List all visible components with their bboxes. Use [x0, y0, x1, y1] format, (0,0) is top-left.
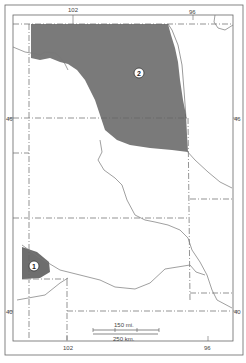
- region-2-marker: 2: [134, 68, 144, 78]
- lon-label-top-102: 102: [68, 7, 79, 13]
- scale-miles-label: 150 mi.: [114, 322, 134, 328]
- region-1-label: 1: [32, 263, 36, 270]
- map: 102 96 102 96 46 46 40 40 2 1 150 mi. 25…: [0, 0, 246, 363]
- lon-label-bottom-102: 102: [63, 345, 74, 351]
- lon-label-top-96: 96: [189, 9, 196, 15]
- region-1-marker: 1: [29, 261, 39, 271]
- lat-label-right-40: 40: [234, 309, 241, 315]
- map-canvas: 102 96 102 96 46 46 40 40 2 1 150 mi. 25…: [0, 0, 246, 363]
- lat-label-right-46: 46: [234, 116, 241, 122]
- lat-label-left-46: 46: [6, 116, 13, 122]
- lon-label-bottom-96: 96: [204, 345, 211, 351]
- region-2-label: 2: [137, 70, 141, 77]
- lat-label-left-40: 40: [6, 309, 13, 315]
- region-2-shade: [31, 24, 188, 152]
- scale-km-label: 250 km.: [113, 336, 135, 342]
- scale-bar: 150 mi. 250 km.: [93, 322, 159, 342]
